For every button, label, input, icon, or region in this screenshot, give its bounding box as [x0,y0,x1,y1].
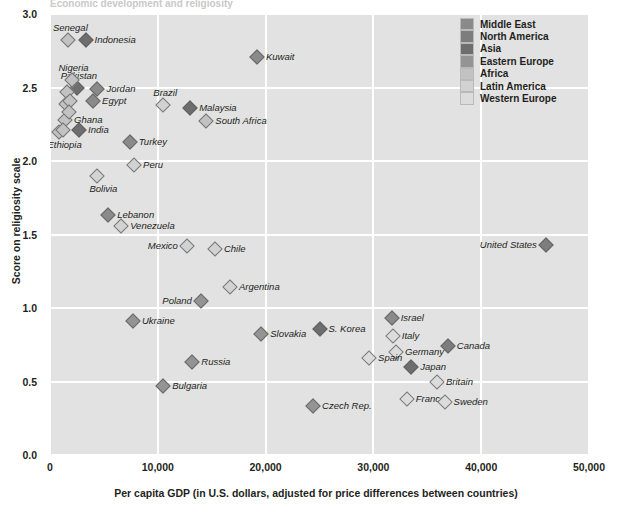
legend: Middle EastNorth AmericaAsiaEastern Euro… [460,18,557,105]
legend-swatch [460,80,474,92]
x-axis-label: Per capita GDP (in U.S. dollars, adjuste… [0,487,632,499]
legend-swatch [460,30,474,42]
data-point-marker [100,208,116,224]
legend-item: Middle East [460,18,557,30]
legend-label: Latin America [480,81,546,92]
data-point-marker [429,374,445,390]
data-point-marker [254,327,270,343]
data-point-label: Mexico [148,241,178,251]
data-point-marker [207,241,223,257]
data-point-label: Senegal [53,23,88,33]
y-tick-label: 0.5 [0,376,37,388]
data-point-marker [361,350,377,366]
legend-item: North America [460,30,557,42]
legend-label: Asia [480,43,501,54]
data-point-marker [125,313,141,329]
data-point-label: Japan [420,362,446,372]
data-point-marker [90,168,106,184]
legend-item: Eastern Europe [460,55,557,67]
x-tick-label: 10,000 [142,461,174,473]
data-point-marker [122,134,138,150]
data-point-label: Czech Rep. [322,401,372,411]
data-point-label: Kuwait [266,52,295,62]
data-point-marker [185,355,201,371]
data-point-label: Germany [405,347,444,357]
data-point-label: Jordan [106,84,135,94]
legend-swatch [460,68,474,80]
data-point-label: Brazil [153,88,177,98]
x-tick-label: 30,000 [357,461,389,473]
legend-label: Eastern Europe [480,56,554,67]
data-point-marker [78,33,94,49]
legend-item: Africa [460,68,557,80]
data-point-marker [61,33,77,49]
legend-label: Western Europe [480,93,557,104]
legend-item: Latin America [460,80,557,92]
data-point-label: Peru [143,160,163,170]
legend-swatch [460,43,474,55]
gridline-horizontal [50,381,589,383]
gridline-horizontal [50,14,589,15]
data-point-label: Poland [162,296,192,306]
data-point-label: Italy [402,331,419,341]
legend-item: Asia [460,43,557,55]
legend-label: Middle East [480,19,536,30]
data-point-label: Spain [378,353,402,363]
data-point-label: Chile [224,244,246,254]
data-point-marker [249,49,265,65]
data-point-marker [199,114,215,130]
data-point-label: Sweden [454,397,488,407]
data-point-label: Israel [401,313,424,323]
data-point-marker [182,100,198,116]
y-tick-label: 0.0 [0,449,37,461]
data-point-marker [222,280,238,296]
legend-label: Africa [480,68,508,79]
y-tick-label: 2.5 [0,82,37,94]
data-point-label: Ethiopia [50,140,82,150]
data-point-label: United States [480,240,537,250]
data-point-marker [85,93,101,109]
legend-swatch [460,18,474,30]
data-point-label: Russia [201,357,230,367]
y-tick-label: 3.0 [0,8,37,20]
data-point-label: Bolivia [89,184,117,194]
data-point-label: Indonesia [95,35,136,45]
x-tick-label: 20,000 [250,461,282,473]
x-tick-label: 40,000 [465,461,497,473]
data-point-label: Nigeria [58,63,88,73]
data-point-marker [538,237,554,253]
legend-swatch [460,92,474,104]
data-point-marker [399,391,415,407]
data-point-label: Argentina [239,282,280,292]
chart-title: Economic development and religiosity [50,0,233,9]
data-point-label: Turkey [139,137,167,147]
scatter-chart-figure: Economic development and religiosity Kuw… [0,0,632,514]
y-axis-label: Score on religiosity scale [10,111,22,331]
data-point-marker [305,399,321,415]
data-point-label: Britain [446,377,473,387]
gridline-horizontal [50,307,589,309]
data-point-marker [384,311,400,327]
data-point-marker [312,321,328,337]
legend-item: Western Europe [460,92,557,104]
gridline-horizontal [50,454,589,455]
data-point-label: S. Korea [329,324,366,334]
data-point-marker [403,359,419,375]
data-point-label: Malaysia [199,103,237,113]
data-point-label: Ukraine [142,316,175,326]
gridline-horizontal [50,234,589,236]
data-point-marker [385,328,401,344]
data-point-label: Venezuela [130,221,175,231]
data-point-label: Ghana [74,115,103,125]
data-point-label: India [88,125,109,135]
data-point-label: Canada [457,341,490,351]
data-point-label: Bulgaria [172,381,207,391]
legend-label: North America [480,31,549,42]
legend-swatch [460,55,474,67]
data-point-label: South Africa [215,116,266,126]
data-point-label: Egypt [102,96,126,106]
x-tick-label: 0 [47,461,53,473]
data-point-label: Slovakia [270,329,306,339]
x-tick-label: 50,000 [573,461,605,473]
data-point-marker [179,238,195,254]
